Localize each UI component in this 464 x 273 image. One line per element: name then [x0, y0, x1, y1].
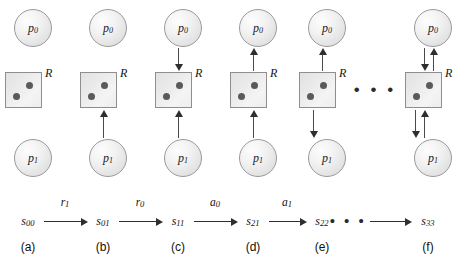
process-p1-label: p1 [178, 151, 188, 166]
resource-label: R [45, 66, 52, 81]
transition-label-r0: r0 [136, 196, 145, 209]
arrow-head [175, 110, 183, 117]
state-label-s33: s33 [421, 214, 434, 229]
transition-arrow-head [405, 218, 412, 226]
resource-token [320, 82, 327, 89]
process-node-p1[interactable]: p1 [164, 139, 202, 177]
transition-label-a1: a1 [282, 196, 292, 209]
process-p1-label: p1 [428, 151, 438, 166]
arrow-head [430, 48, 438, 55]
panel-a: p0Rp1 [0, 0, 69, 192]
resource-token [163, 93, 170, 100]
panel-c: p0Rp1 [147, 0, 219, 192]
process-p0-label: p0 [103, 21, 113, 36]
arrow-shaft [253, 116, 254, 138]
resource-node-R[interactable] [299, 72, 336, 108]
arrow-head [412, 131, 420, 138]
process-node-p1[interactable]: p1 [14, 139, 52, 177]
arrow-shaft [103, 116, 104, 138]
process-node-p1[interactable]: p1 [308, 139, 346, 177]
arrow-head [175, 64, 183, 71]
panel-caption-e: (e) [315, 240, 330, 254]
panel-d: p0Rp1 [222, 0, 294, 192]
transition-label-r1: r1 [61, 196, 70, 209]
arrow-head [310, 131, 318, 138]
state-label-s01: s01 [96, 214, 109, 229]
process-p1-label: p1 [322, 151, 332, 166]
resource-label: R [195, 66, 202, 81]
process-p1-label: p1 [28, 151, 38, 166]
process-p1-label: p1 [103, 151, 113, 166]
arrow-head [250, 110, 258, 117]
state-label-s21: s21 [246, 214, 259, 229]
state-transition-chain: s00s01s11s21s22s33r1r0a0a1• • • [0, 192, 464, 238]
process-node-p1[interactable]: p1 [414, 139, 452, 177]
arrow-shaft [322, 54, 323, 71]
process-node-p0[interactable]: p0 [164, 9, 202, 47]
panel-caption-d: (d) [246, 240, 261, 254]
arrow-head [421, 64, 429, 71]
chain-ellipsis: • • • [330, 212, 367, 229]
figure-canvas: p0Rp1p0Rp1p0Rp1p0Rp1p0Rp1p0Rp1 • • • s00… [0, 0, 464, 273]
resource-node-R[interactable] [155, 72, 192, 108]
state-label-s11: s11 [172, 214, 185, 229]
process-node-p0[interactable]: p0 [14, 9, 52, 47]
resource-token [13, 93, 20, 100]
resource-token [238, 93, 245, 100]
transition-arrow-3 [194, 217, 238, 226]
panel-e: p0Rp1 [291, 0, 363, 192]
process-p0-label: p0 [322, 21, 332, 36]
arrow-shaft [424, 116, 425, 138]
process-node-p0[interactable]: p0 [89, 9, 127, 47]
resource-label: R [445, 66, 452, 81]
transition-arrow-head [300, 218, 307, 226]
panel-caption-c: (c) [171, 240, 185, 254]
transition-arrow-4 [269, 217, 307, 226]
arrow-shaft [415, 110, 416, 132]
panel-f: p0Rp1 [397, 0, 464, 192]
state-label-s22: s22 [315, 214, 328, 229]
process-p0-label: p0 [253, 21, 263, 36]
transition-label-a0: a0 [210, 196, 220, 209]
transition-arrow-shaft [194, 221, 232, 222]
resource-node-R[interactable] [80, 72, 117, 108]
resource-label: R [270, 66, 277, 81]
panel-caption-a: (a) [21, 240, 36, 254]
arrow-shaft [433, 54, 434, 71]
transition-arrow-head [231, 218, 238, 226]
panel-caption-b: (b) [96, 240, 111, 254]
transition-arrow-shaft [44, 221, 82, 222]
resource-node-R[interactable] [5, 72, 42, 108]
process-p0-label: p0 [28, 21, 38, 36]
process-p1-label: p1 [253, 151, 263, 166]
arrow-shaft [424, 48, 425, 65]
diagram-ellipsis: • • • [354, 80, 396, 100]
state-label-s00: s00 [21, 214, 34, 229]
process-node-p1[interactable]: p1 [89, 139, 127, 177]
resource-label: R [339, 66, 346, 81]
process-p0-label: p0 [178, 21, 188, 36]
resource-token [176, 82, 183, 89]
arrow-shaft [178, 116, 179, 138]
resource-token [426, 82, 433, 89]
arrow-head [250, 48, 258, 55]
process-node-p1[interactable]: p1 [239, 139, 277, 177]
process-node-p0[interactable]: p0 [308, 9, 346, 47]
arrow-shaft [178, 48, 179, 65]
resource-node-R[interactable] [230, 72, 267, 108]
resource-token [26, 82, 33, 89]
resource-token [101, 82, 108, 89]
process-node-p0[interactable]: p0 [239, 9, 277, 47]
panel-caption-f: (f) [422, 240, 433, 254]
transition-arrow-head [81, 218, 88, 226]
transition-arrow-2 [119, 217, 163, 226]
process-node-p0[interactable]: p0 [414, 9, 452, 47]
resource-token [88, 93, 95, 100]
arrow-head [319, 48, 327, 55]
resource-token [251, 82, 258, 89]
resource-node-R[interactable] [405, 72, 442, 108]
arrow-head [100, 110, 108, 117]
arrow-shaft [313, 110, 314, 132]
resource-token [307, 93, 314, 100]
arrow-shaft [253, 54, 254, 71]
